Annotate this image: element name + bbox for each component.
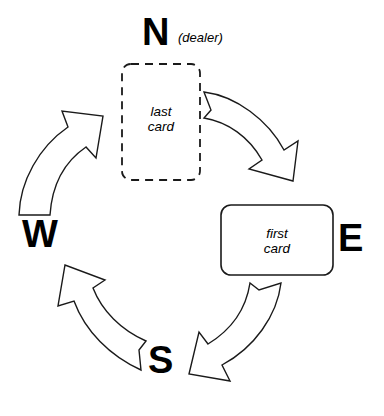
arrow-north-to-east bbox=[204, 92, 298, 181]
arrow-south-to-west bbox=[58, 265, 146, 370]
compass-label-west: W bbox=[22, 215, 57, 253]
dealer-annotation: (dealer) bbox=[178, 30, 223, 45]
arrow-east-to-south bbox=[189, 283, 281, 381]
last-card-label: last card bbox=[122, 104, 200, 134]
compass-label-north: N bbox=[142, 13, 168, 51]
arrow-west-to-north bbox=[19, 111, 103, 215]
compass-label-south: S bbox=[148, 341, 172, 379]
compass-label-east: E bbox=[338, 219, 362, 257]
diagram-canvas bbox=[0, 0, 384, 416]
first-card-label: first card bbox=[221, 226, 333, 256]
rotation-diagram: N (dealer) E S W last card first card bbox=[0, 0, 384, 416]
